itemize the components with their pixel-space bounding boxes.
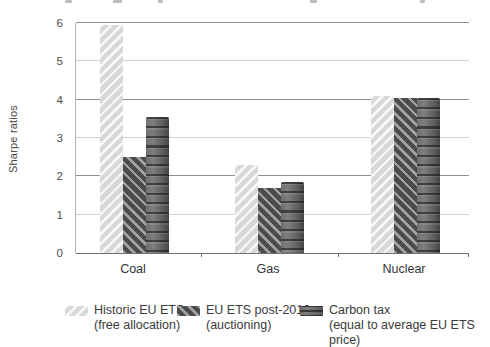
bar-gas-carbon-tax [281, 182, 304, 253]
x-category-label-gas: Gas [213, 262, 323, 276]
y-tick-label-1: 1 [33, 208, 63, 222]
y-tick-label-2: 2 [33, 169, 63, 183]
bar-nuclear-carbon-tax [417, 98, 440, 253]
legend-label-line1: Carbon tax [329, 303, 490, 318]
bar-gas-eu-ets-post-2012 [258, 188, 281, 253]
bar-coal-carbon-tax [146, 117, 169, 253]
legend-label-line2: (equal to average EU ETS price) [329, 318, 490, 347]
y-tick-label-4: 4 [33, 93, 63, 107]
x-axis-tick-1 [338, 253, 339, 257]
x-axis-tick-0 [201, 253, 202, 257]
bar-coal-eu-ets-post-2012 [123, 157, 146, 253]
x-axis-line [76, 253, 469, 254]
legend-label-eu-ets-post-2012: EU ETS post-2012(auctioning) [206, 303, 310, 333]
legend-item-eu-ets-post-2012: EU ETS post-2012(auctioning) [177, 303, 310, 333]
y-axis-title: Sharpe ratios [7, 105, 19, 173]
y-tick-label-3: 3 [33, 131, 63, 145]
legend-swatch-eu-ets-post-2012 [177, 306, 200, 316]
bar-nuclear-historic-eu-ets [371, 96, 394, 253]
legend-label-line1: Historic EU ETS [94, 303, 184, 318]
legend-swatch-historic-eu-ets [65, 306, 88, 316]
legend-label-line1: EU ETS post-2012 [206, 303, 310, 318]
bar-gas-historic-eu-ets [235, 165, 258, 253]
y-tick-label-6: 6 [33, 16, 63, 30]
x-category-label-nuclear: Nuclear [349, 262, 459, 276]
y-tick-label-5: 5 [33, 54, 63, 68]
legend-label-historic-eu-ets: Historic EU ETS(free allocation) [94, 303, 184, 333]
x-axis-tick-2 [468, 253, 469, 257]
legend-item-historic-eu-ets: Historic EU ETS(free allocation) [65, 303, 184, 333]
legend-item-carbon-tax: Carbon tax(equal to average EU ETS price… [300, 303, 490, 347]
x-category-label-coal: Coal [78, 262, 188, 276]
gridline-y-5 [76, 60, 469, 61]
legend-swatch-carbon-tax [300, 306, 323, 316]
clipped-title-remnant [310, 0, 317, 3]
clipped-title-remnant [65, 0, 72, 3]
bar-nuclear-eu-ets-post-2012 [394, 98, 417, 253]
legend-label-line2: (free allocation) [94, 318, 184, 333]
legend-label-line2: (auctioning) [206, 318, 310, 333]
clipped-title-remnant [113, 0, 122, 3]
plot-area [75, 23, 469, 253]
y-tick-label-0: 0 [33, 246, 63, 260]
gridline-y-6 [76, 22, 469, 23]
legend-label-carbon-tax: Carbon tax(equal to average EU ETS price… [329, 303, 490, 347]
bar-coal-historic-eu-ets [100, 25, 123, 253]
clipped-title-remnant [158, 0, 163, 3]
sharpe-ratios-bar-chart: Sharpe ratios CoalGasNuclear 0123456 His… [0, 0, 490, 347]
clipped-title-remnant [420, 0, 425, 3]
